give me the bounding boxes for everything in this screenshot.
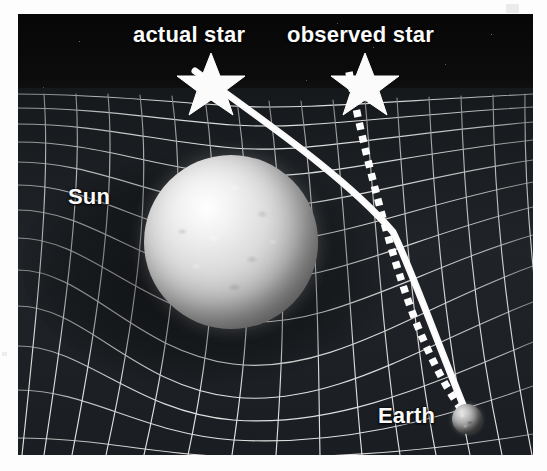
actual-light-ray xyxy=(195,71,466,412)
earth-surface-texture xyxy=(452,404,482,434)
label-sun: Sun xyxy=(68,186,110,208)
illustration-plate: actual star observed star Sun Earth xyxy=(18,14,533,455)
actual-star-icon xyxy=(177,50,245,116)
earth-sphere xyxy=(452,404,482,434)
figure-canvas: actual star observed star Sun Earth xyxy=(0,0,547,471)
label-earth: Earth xyxy=(378,405,435,427)
scan-artifact xyxy=(2,352,7,356)
light-paths xyxy=(18,14,533,455)
label-observed-star: observed star xyxy=(287,24,434,46)
observed-star-icon xyxy=(331,50,399,116)
label-actual-star: actual star xyxy=(133,24,245,46)
scan-artifact xyxy=(506,4,519,13)
actual-light-ray-highlight xyxy=(195,71,466,412)
